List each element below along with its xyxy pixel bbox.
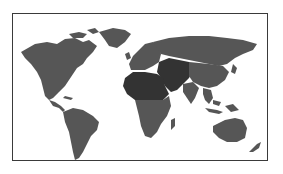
- region-south-america: [63, 108, 99, 160]
- region-caribbean: [63, 96, 73, 100]
- world-map-frame: world-map: [12, 13, 268, 161]
- region-central-america: [49, 100, 65, 112]
- region-japan: [231, 64, 237, 74]
- region-north-america: [21, 38, 97, 100]
- world-map: [13, 14, 269, 162]
- region-madagascar: [171, 118, 175, 130]
- region-arctic-islands: [69, 28, 99, 38]
- region-australia: [213, 118, 247, 142]
- region-new-zealand: [249, 142, 261, 152]
- region-southern-africa: [135, 96, 171, 138]
- region-india: [183, 82, 199, 104]
- region-southeast-asia: [203, 88, 213, 104]
- region-uk: [125, 52, 131, 60]
- region-greenland: [99, 28, 131, 48]
